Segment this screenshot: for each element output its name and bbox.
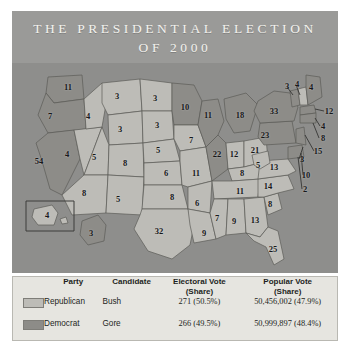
ev-label-GA: 13 [251,216,260,225]
democrat-swatch [23,320,44,330]
ev-label-PA: 23 [261,131,270,140]
ev-label-NC: 14 [264,182,273,191]
header-swatch-col [13,277,44,296]
table-row: RepublicanBush271 (50.5%)50,456,002 (47.… [13,296,337,318]
ev-label-ME: 4 [309,83,313,92]
ev-label-AL: 9 [232,217,236,226]
page-title-line-1: THE PRESIDENTIAL ELECTION [12,21,338,37]
state-NJ [296,127,306,145]
ev-label-AR: 6 [195,199,199,208]
cell-party: Republican [44,296,102,318]
header-electoral-vote-sub: (Share) [161,287,239,297]
ev-label-LA: 9 [202,229,206,238]
ev-label-WY: 3 [118,125,122,134]
ev-label-WI: 11 [204,111,212,120]
ev-label-CT: 8 [321,134,325,143]
ev-label-CO: 8 [123,159,127,168]
ev-label-MS: 7 [215,214,219,223]
us-electoral-map: 1175444335885335683210711691122181221811… [12,63,338,273]
map-graphic [12,63,338,273]
cell-candidate: Gore [102,318,160,340]
ev-label-AK: 4 [45,211,49,220]
ev-label-NY: 33 [270,107,279,116]
ev-label-TX: 32 [155,227,164,236]
state-MT [102,79,142,115]
ev-label-UT: 5 [92,153,96,162]
cell-popular-vote: 50,999,897 (48.4%) [238,318,337,340]
ev-label-FL: 25 [269,245,278,254]
ev-label-MD: 10 [302,171,311,180]
cell-electoral-vote: 266 (49.5%) [161,318,239,340]
ev-label-WV: 5 [256,161,260,170]
header-electoral-vote-main: Electoral Vote [161,277,239,287]
ev-label-CA: 54 [35,157,44,166]
ev-label-MT: 3 [115,92,119,101]
ev-label-NM: 5 [116,195,120,204]
ev-label-MN: 10 [181,103,190,112]
results-table: Party Candidate Electoral Vote (Share) P… [13,277,337,340]
table-header-row: Party Candidate Electoral Vote (Share) P… [13,277,337,296]
ev-label-VT: 3 [285,82,289,91]
header-electoral-vote: Electoral Vote (Share) [161,277,239,296]
ev-label-MA: 12 [325,107,334,116]
header-popular-vote: Popular Vote (Share) [238,277,337,296]
ev-label-RI: 4 [321,122,325,131]
state-AR [188,181,212,213]
state-WY [108,111,143,145]
results-table-body: RepublicanBush271 (50.5%)50,456,002 (47.… [13,296,337,340]
election-map-figure: THE PRESIDENTIAL ELECTION OF 2000 [0,0,350,354]
ev-label-DE: 3 [300,155,304,164]
page-title-line-2: OF 2000 [12,40,338,56]
ev-label-VA: 13 [270,163,279,172]
ev-label-MO: 11 [192,169,200,178]
table-row: DemocratGore266 (49.5%)50,999,897 (48.4%… [13,318,337,340]
state-CT-RI [300,113,316,123]
swatch-cell [13,318,44,340]
ev-label-IL: 22 [213,150,222,159]
ev-label-DC: 2 [303,185,307,194]
ev-label-TN: 11 [236,187,244,196]
ev-label-OK: 8 [170,193,174,202]
ev-label-ND: 3 [153,94,157,103]
ev-label-HI: 3 [89,229,93,238]
header-popular-vote-sub: (Share) [238,287,337,297]
cell-candidate: Bush [102,296,160,318]
state-NM [106,175,144,215]
ev-label-IA: 7 [189,136,193,145]
swatch-cell [13,296,44,318]
ev-label-OR: 7 [48,112,52,121]
ev-label-OH: 21 [251,146,260,155]
ev-label-SC: 8 [268,200,272,209]
ev-label-ID: 4 [86,112,90,121]
ev-label-NJ: 15 [314,147,323,156]
ev-label-KY: 8 [240,169,244,178]
ev-label-NE: 5 [156,146,160,155]
state-NE [143,139,180,163]
ev-label-AZ: 8 [82,189,86,198]
header-popular-vote-main: Popular Vote [238,277,337,287]
results-legend-panel: Party Candidate Electoral Vote (Share) P… [12,276,338,341]
ev-label-MI: 18 [236,111,245,120]
cell-electoral-vote: 271 (50.5%) [161,296,239,318]
ev-label-IN: 12 [230,150,239,159]
ev-label-WA: 11 [64,83,72,92]
header-candidate: Candidate [102,277,160,296]
ev-label-NH: 4 [295,80,299,89]
republican-swatch [23,298,44,308]
header-party: Party [44,277,102,296]
state-OK [142,185,188,209]
cell-party: Democrat [44,318,102,340]
ev-label-NV: 4 [65,150,69,159]
ev-label-SD: 3 [155,121,159,130]
title-banner: THE PRESIDENTIAL ELECTION OF 2000 [12,11,338,63]
cell-popular-vote: 50,456,002 (47.9%) [238,296,337,318]
ev-label-KS: 6 [164,169,168,178]
